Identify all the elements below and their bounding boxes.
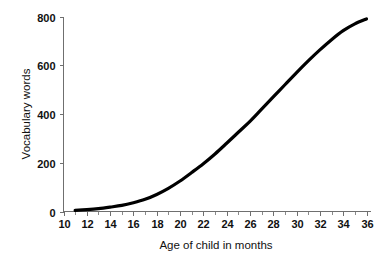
x-tick-label-26: 26 [244, 218, 256, 230]
x-tick-label-30: 30 [291, 218, 303, 230]
y-tick-label-800: 800 [37, 12, 55, 24]
x-tick-label-34: 34 [337, 218, 350, 230]
y-axis-title: Vocabulary words [20, 68, 32, 159]
x-tick-label-16: 16 [127, 218, 139, 230]
chart-canvas: 0200400600800 Vocabulary words 101214161… [0, 0, 392, 265]
x-tick-label-24: 24 [221, 218, 234, 230]
x-tick-label-22: 22 [197, 218, 209, 230]
vocabulary-growth-chart: 0200400600800 Vocabulary words 101214161… [0, 0, 392, 265]
x-tick-label-14: 14 [104, 218, 117, 230]
y-tick-label-0: 0 [49, 207, 55, 219]
y-tick-label-600: 600 [37, 60, 55, 72]
x-tick-label-20: 20 [174, 218, 186, 230]
x-tick-label-32: 32 [314, 218, 326, 230]
x-tick-label-36: 36 [361, 218, 373, 230]
x-tick-label-12: 12 [81, 218, 93, 230]
x-axis-title: Age of child in months [159, 239, 272, 251]
x-tick-label-10: 10 [58, 218, 70, 230]
x-tick-label-18: 18 [151, 218, 163, 230]
y-tick-label-400: 400 [37, 109, 55, 121]
x-tick-label-28: 28 [267, 218, 279, 230]
y-tick-label-200: 200 [37, 158, 55, 170]
